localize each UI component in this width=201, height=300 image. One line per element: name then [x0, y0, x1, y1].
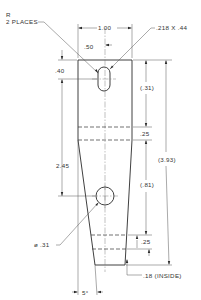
label-groove-width-bottom: .25: [141, 238, 151, 245]
technical-drawing: 1.00 .50 R 2 PLACES .218 X .44 .40 2.45: [0, 0, 201, 300]
label-overall-height: (3.93): [158, 156, 176, 163]
label-half-width: .50: [84, 43, 94, 50]
label-groove-to-bottom: (.81): [140, 181, 154, 188]
dimension-taper-angle: 5°: [72, 140, 103, 296]
label-overall-width: 1.00: [98, 24, 112, 31]
hole-diameter-note: ø .31: [34, 203, 99, 249]
label-bottom-inside: .18 (INSIDE): [143, 272, 182, 279]
dimension-top-to-slot: .40: [55, 50, 97, 196]
slot-size-note: .218 X .44: [110, 24, 187, 69]
label-two-places: 2 PLACES: [6, 18, 38, 25]
label-radius: R: [6, 11, 11, 18]
label-groove-width-top: .25: [140, 130, 150, 137]
groove-bottom: [91, 235, 127, 249]
dimension-chain-right: (.31) .25 (.81): [128, 60, 172, 235]
label-slot-to-hole: 2.45: [56, 162, 70, 169]
label-taper-angle: 5°: [82, 289, 89, 296]
label-slot-to-groove: (.31): [140, 84, 154, 91]
label-slot-size: .218 X .44: [156, 24, 187, 31]
dimension-bottom-inside: .18 (INSIDE): [126, 259, 182, 279]
dimension-groove-bottom: .25: [127, 235, 152, 256]
label-top-to-slot: .40: [55, 67, 65, 74]
label-hole-diameter: ø .31: [34, 241, 50, 248]
dimension-half-width: .50: [84, 43, 112, 50]
